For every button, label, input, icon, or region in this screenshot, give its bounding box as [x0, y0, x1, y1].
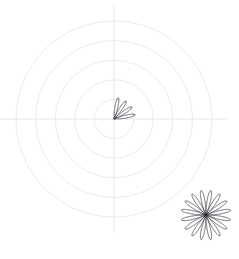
polar-chart-figure: [0, 0, 239, 259]
polar-plot-canvas: [0, 0, 239, 259]
rose-curve-inset: [181, 190, 230, 239]
rose-curve-main: [114, 98, 135, 119]
inset-plot: [181, 190, 230, 239]
